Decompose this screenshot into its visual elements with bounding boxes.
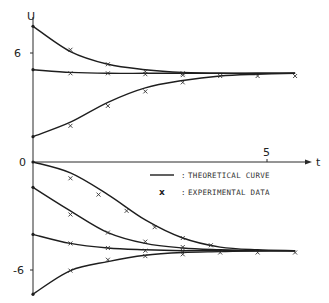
chart: U 6 0 -6 5 t : THEORETICAL CURVE x : EXP… (0, 0, 329, 303)
legend-label-experimental: EXPERIMENTAL DATA (188, 188, 270, 197)
legend-sep-1: : (181, 171, 186, 180)
x-marker-icon (68, 176, 72, 180)
y-tick-label-neg6: -6 (13, 264, 24, 277)
start-point (31, 160, 34, 163)
x-marker-icon (68, 212, 72, 216)
y-tick-label-6: 6 (14, 47, 21, 60)
x-marker-icon (143, 89, 147, 93)
y-axis-label: U (27, 10, 35, 23)
start-point (31, 293, 34, 296)
y-tick-label-0: 0 (19, 156, 26, 169)
legend-x-marker-icon: x (159, 187, 165, 197)
x-axis-arrow-icon (305, 160, 312, 165)
start-point (31, 68, 34, 71)
legend-sep-2: : (181, 188, 186, 197)
theoretical-curves (31, 25, 295, 296)
x-marker-icon (68, 124, 72, 128)
start-point (31, 233, 34, 236)
experimental-markers (68, 48, 297, 273)
start-point (31, 135, 34, 138)
x-marker-icon (97, 193, 101, 197)
theoretical-curve (33, 26, 295, 73)
theoretical-curve (33, 234, 295, 250)
x-marker-icon (293, 74, 297, 78)
x-marker-icon (125, 209, 129, 213)
x-tick-label-5: 5 (263, 146, 270, 159)
start-point (31, 25, 34, 28)
legend-label-theoretical: THEORETICAL CURVE (188, 171, 270, 180)
x-marker-icon (106, 104, 110, 108)
x-axis-label: t (316, 156, 321, 169)
start-point (31, 186, 34, 189)
legend: : THEORETICAL CURVE x : EXPERIMENTAL DAT… (150, 171, 270, 197)
